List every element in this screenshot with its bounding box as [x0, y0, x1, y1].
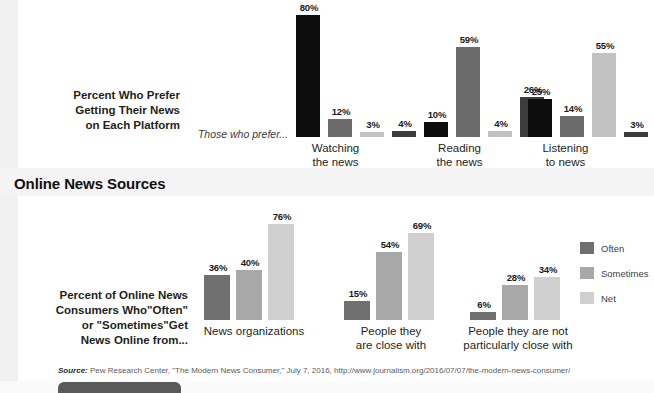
bar-value-label: 6% [469, 299, 499, 310]
bar [624, 132, 648, 137]
bar [488, 131, 512, 137]
chart-legend: OftenSometimesNet [580, 242, 649, 317]
bar [456, 47, 480, 137]
category-label: Reading the news [412, 142, 507, 169]
bar-value-label: 34% [533, 264, 563, 275]
bar-group: 15%54%69% [344, 196, 440, 320]
bar [528, 99, 552, 137]
bar [328, 119, 352, 137]
bar [268, 224, 294, 320]
bar-value-label: 80% [295, 2, 323, 13]
bar [424, 122, 448, 137]
bar [534, 277, 560, 320]
bar [344, 301, 370, 320]
source-note: Source: Pew Research Center, "The Modern… [58, 366, 570, 375]
legend-swatch-icon [580, 292, 594, 304]
bar-value-label: 40% [235, 257, 265, 268]
bar-value-label: 54% [375, 239, 405, 250]
legend-item: Sometimes [580, 267, 649, 279]
bar [392, 131, 416, 137]
category-label: People they are close with [336, 325, 446, 352]
bar-value-label: 36% [203, 262, 233, 273]
bar [360, 132, 384, 137]
bar [502, 285, 528, 320]
bar-value-label: 55% [591, 40, 619, 51]
bar-value-label: 76% [267, 211, 297, 222]
legend-label: Sometimes [601, 268, 649, 279]
bar-group: 80%12%3%4% [296, 0, 416, 137]
bar-group: 6%28%34% [470, 196, 566, 320]
bar-value-label: 28% [501, 272, 531, 283]
legend-item: Often [580, 242, 649, 254]
category-label: People they are not particularly close w… [448, 325, 588, 352]
bar [408, 233, 434, 320]
bar-value-label: 59% [455, 34, 483, 45]
online-news-sources-bar-chart: 36%40%76%News organizations15%54%69%Peop… [0, 196, 654, 361]
bar-group: 36%40%76% [204, 196, 300, 320]
bar [560, 116, 584, 137]
bar [236, 270, 262, 320]
bar-value-label: 4% [391, 118, 419, 129]
bar-value-label: 4% [487, 118, 515, 129]
legend-label: Often [601, 243, 624, 254]
bar [592, 53, 616, 137]
category-label: Watching the news [288, 142, 383, 169]
legend-swatch-icon [580, 242, 594, 254]
bar [376, 252, 402, 320]
category-label: News organizations [184, 325, 324, 339]
legend-item: Net [580, 292, 649, 304]
bar [470, 312, 496, 320]
bar [204, 275, 230, 320]
bar-value-label: 3% [623, 119, 651, 130]
bar-group: 10%59%4%26% [424, 0, 544, 137]
legend-label: Net [601, 293, 616, 304]
bar-value-label: 3% [359, 119, 387, 130]
bottom-pill-decoration [58, 382, 181, 393]
bar-value-label: 69% [407, 220, 437, 231]
bar-group: 25%14%55%3% [528, 0, 648, 137]
bar-value-label: 10% [423, 109, 451, 120]
legend-swatch-icon [580, 267, 594, 279]
category-label: Listening to news [518, 142, 613, 169]
bar [296, 15, 320, 137]
source-text: Pew Research Center, "The Modern News Co… [88, 366, 570, 375]
platform-preference-bar-chart: 80%12%3%4%Watching the news10%59%4%26%Re… [0, 0, 654, 165]
source-label: Source: [58, 366, 88, 375]
section-heading-online-news-sources: Online News Sources [14, 175, 165, 192]
bar-value-label: 12% [327, 106, 355, 117]
bar-value-label: 25% [527, 86, 555, 97]
bar-value-label: 14% [559, 103, 587, 114]
bar-value-label: 15% [343, 288, 373, 299]
